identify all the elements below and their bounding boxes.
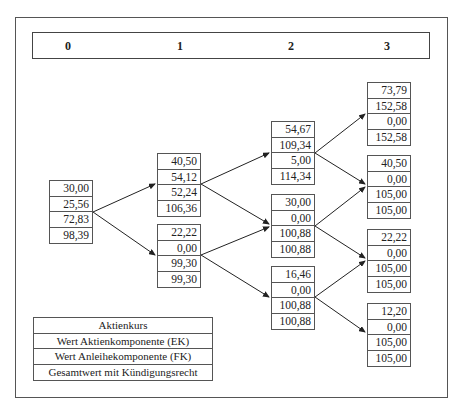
stock-price: 30,00: [50, 181, 92, 197]
total-value: 152,58: [368, 130, 410, 146]
total-value: 114,34: [272, 169, 314, 185]
total-value: 105,00: [368, 203, 410, 219]
bond-value: 100,88: [272, 298, 314, 314]
equity-value: 0,00: [368, 320, 410, 336]
bond-value: 105,00: [368, 335, 410, 351]
equity-value: 0,00: [272, 283, 314, 299]
stock-price: 16,46: [272, 267, 314, 283]
node-t0: 30,00 25,56 72,83 98,39: [49, 180, 93, 244]
node-t3-ddd: 12,20 0,00 105,00 105,00: [367, 303, 411, 367]
node-t2-dd: 16,46 0,00 100,88 100,88: [271, 266, 315, 330]
total-value: 99,30: [158, 272, 200, 288]
bond-value: 0,00: [368, 114, 410, 130]
legend-total-value: Gesamtwert mit Kündigungsrecht: [34, 365, 212, 381]
equity-value: 54,12: [158, 170, 200, 186]
stock-price: 12,20: [368, 304, 410, 320]
equity-value: 0,00: [368, 246, 410, 262]
node-t2-ud: 30,00 0,00 100,88 100,88: [271, 194, 315, 258]
legend-stock-price: Aktienkurs: [34, 318, 212, 334]
total-value: 105,00: [368, 351, 410, 367]
total-value: 100,88: [272, 242, 314, 258]
node-t3-uud: 40,50 0,00 105,00 105,00: [367, 155, 411, 219]
bond-value: 5,00: [272, 153, 314, 169]
stock-price: 54,67: [272, 122, 314, 138]
bond-value: 105,00: [368, 261, 410, 277]
equity-value: 25,56: [50, 197, 92, 213]
legend: Aktienkurs Wert Aktienkomponente (EK) We…: [33, 317, 213, 381]
legend-bond-component: Wert Anleihekomponente (FK): [34, 349, 212, 365]
equity-value: 152,58: [368, 99, 410, 115]
stock-price: 22,22: [158, 225, 200, 241]
equity-value: 109,34: [272, 138, 314, 154]
stock-price: 40,50: [368, 156, 410, 172]
stock-price: 73,79: [368, 83, 410, 99]
bond-value: 100,88: [272, 226, 314, 242]
total-value: 105,00: [368, 277, 410, 293]
node-t3-udd: 22,22 0,00 105,00 105,00: [367, 229, 411, 293]
equity-value: 0,00: [158, 241, 200, 257]
bond-value: 72,83: [50, 212, 92, 228]
stock-price: 30,00: [272, 195, 314, 211]
bond-value: 105,00: [368, 187, 410, 203]
equity-value: 0,00: [272, 211, 314, 227]
bond-value: 99,30: [158, 256, 200, 272]
node-t1-down: 22,22 0,00 99,30 99,30: [157, 224, 201, 288]
total-value: 106,36: [158, 201, 200, 217]
legend-equity-component: Wert Aktienkomponente (EK): [34, 334, 212, 350]
total-value: 98,39: [50, 228, 92, 244]
node-t2-uu: 54,67 109,34 5,00 114,34: [271, 121, 315, 185]
equity-value: 0,00: [368, 172, 410, 188]
node-t1-up: 40,50 54,12 52,24 106,36: [157, 153, 201, 217]
bond-value: 52,24: [158, 185, 200, 201]
node-t3-uuu: 73,79 152,58 0,00 152,58: [367, 82, 411, 146]
total-value: 100,88: [272, 314, 314, 330]
stock-price: 40,50: [158, 154, 200, 170]
stock-price: 22,22: [368, 230, 410, 246]
